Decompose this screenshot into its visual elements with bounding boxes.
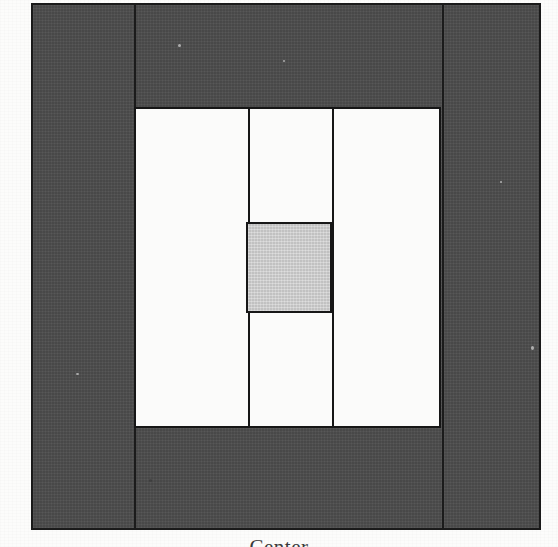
panel-divider-right-line: [332, 109, 334, 426]
figure-caption: Center: [0, 536, 558, 547]
center-highlight-cell: [246, 222, 332, 313]
frame-seam-right-line: [442, 5, 444, 528]
figure-canvas: Center: [0, 0, 558, 547]
